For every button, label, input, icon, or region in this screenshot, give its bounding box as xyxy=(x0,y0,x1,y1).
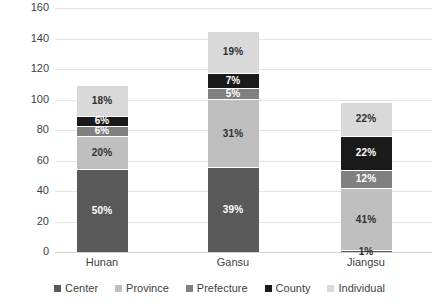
y-axis-tick-label: 0 xyxy=(5,246,49,257)
x-axis-category-labels: HunanGansuJiangsu xyxy=(55,256,432,274)
legend-swatch-icon xyxy=(115,285,122,292)
bar-segment-county[interactable]: 22% xyxy=(341,136,392,170)
bar-segment-value-label: 50% xyxy=(92,206,112,216)
legend-label: Prefecture xyxy=(197,282,248,294)
gridline xyxy=(55,8,432,9)
y-axis-tick-label: 160 xyxy=(5,2,49,13)
legend-item-county[interactable]: County xyxy=(265,282,311,294)
gridline xyxy=(55,252,432,253)
legend-label: Province xyxy=(126,282,169,294)
bar-segment-individual[interactable]: 18% xyxy=(77,86,128,116)
y-axis-tick-label: 40 xyxy=(5,185,49,196)
bar-segment-center[interactable]: 50% xyxy=(77,169,128,252)
bar-segment-individual[interactable]: 19% xyxy=(208,32,259,73)
bar-segment-province[interactable]: 20% xyxy=(77,136,128,169)
legend-item-individual[interactable]: Individual xyxy=(327,282,384,294)
bar-segment-value-label: 20% xyxy=(92,148,112,158)
bar-segment-value-label: 7% xyxy=(226,76,241,86)
bar-segment-value-label: 5% xyxy=(226,89,241,99)
bar-segment-value-label: 18% xyxy=(92,96,112,106)
bar-segment-prefecture[interactable]: 5% xyxy=(208,88,259,99)
bar-segment-center[interactable]: 39% xyxy=(208,167,259,252)
bar-gansu[interactable]: 19%7%5%31%39% xyxy=(208,32,259,252)
legend-item-prefecture[interactable]: Prefecture xyxy=(186,282,248,294)
bar-segment-value-label: 22% xyxy=(356,114,376,124)
bar-hunan[interactable]: 18%6%6%20%50% xyxy=(77,86,128,252)
x-axis-label-gansu: Gansu xyxy=(178,256,288,269)
bar-segment-value-label: 39% xyxy=(223,205,243,215)
legend-swatch-icon xyxy=(327,285,334,292)
legend-swatch-icon xyxy=(265,285,272,292)
plot-area: 18%6%6%20%50%19%7%5%31%39%22%22%12%41%1% xyxy=(55,8,432,252)
bar-segment-prefecture[interactable]: 12% xyxy=(341,170,392,188)
legend-label: Center xyxy=(65,282,98,294)
bar-jiangsu[interactable]: 22%22%12%41%1% xyxy=(341,103,392,252)
x-axis-label-hunan: Hunan xyxy=(47,256,157,269)
chart-legend: CenterProvincePrefectureCountyIndividual xyxy=(0,282,439,294)
y-axis-tick-label: 120 xyxy=(5,63,49,74)
bar-segment-center[interactable]: 1% xyxy=(341,250,392,252)
stacked-bar-chart: 160140120100806040200 18%6%6%20%50%19%7%… xyxy=(0,0,439,303)
legend-swatch-icon xyxy=(186,285,193,292)
legend-item-province[interactable]: Province xyxy=(115,282,169,294)
bar-segment-value-label: 31% xyxy=(223,129,243,139)
y-axis-tick-label: 80 xyxy=(5,124,49,135)
y-axis-tick-label: 140 xyxy=(5,33,49,44)
y-axis-tick-label: 100 xyxy=(5,94,49,105)
y-axis-tick-label: 20 xyxy=(5,216,49,227)
bar-segment-county[interactable]: 7% xyxy=(208,73,259,88)
bar-segment-province[interactable]: 31% xyxy=(208,99,259,167)
bar-segment-value-label: 12% xyxy=(356,174,376,184)
bar-segment-value-label: 41% xyxy=(356,215,376,225)
y-axis-tick-label: 60 xyxy=(5,155,49,166)
bar-segment-value-label: 22% xyxy=(356,148,376,158)
bar-segment-prefecture[interactable]: 6% xyxy=(77,126,128,136)
x-axis-label-jiangsu: Jiangsu xyxy=(311,256,421,269)
y-axis: 160140120100806040200 xyxy=(0,8,49,252)
legend-item-center[interactable]: Center xyxy=(54,282,98,294)
legend-label: County xyxy=(276,282,311,294)
legend-label: Individual xyxy=(338,282,384,294)
legend-swatch-icon xyxy=(54,285,61,292)
bar-segment-province[interactable]: 41% xyxy=(341,188,392,251)
bar-segment-value-label: 19% xyxy=(223,47,243,57)
bar-segment-individual[interactable]: 22% xyxy=(341,103,392,137)
